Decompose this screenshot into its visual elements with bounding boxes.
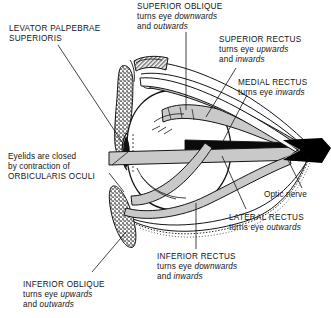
orbicularis-line2: by contraction of	[8, 162, 95, 172]
lateral-rectus-action-line1: turns eye outwards	[229, 223, 304, 233]
orbicularis-line3: ORBICULARIS OCULI	[8, 172, 95, 182]
orbicularis-line1: Eyelids are closed	[8, 152, 95, 162]
label-inferior-rectus: INFERIOR RECTUS turns eye downwards and …	[157, 252, 237, 283]
eye-muscle-diagram: LEVATOR PALPEBRAE SUPERIORIS SUPERIOR OB…	[0, 0, 331, 318]
levator-name-line2: SUPERIORIS	[9, 34, 100, 44]
superior-oblique-action-line1: turns eye downwards	[137, 12, 222, 22]
medial-rectus-action-line1: turns eye inwards	[238, 88, 307, 98]
inferior-rectus-name: INFERIOR RECTUS	[157, 252, 237, 262]
inferior-rectus-action-line1: turns eye downwards	[157, 262, 237, 272]
label-superior-rectus: SUPERIOR RECTUS turns eye upwards and in…	[219, 35, 301, 66]
superior-rectus-action-line2: and inwards	[219, 55, 301, 65]
inferior-oblique-action-line2: and outwards	[23, 300, 105, 310]
inferior-oblique-name: INFERIOR OBLIQUE	[23, 280, 105, 290]
levator-name: LEVATOR PALPEBRAE	[9, 24, 100, 34]
inferior-oblique-action-line1: turns eye upwards	[23, 290, 105, 300]
optic-nerve-name: Optic nerve	[264, 190, 307, 200]
label-medial-rectus: MEDIAL RECTUS turns eye inwards	[238, 78, 307, 98]
medial-rectus-name: MEDIAL RECTUS	[238, 78, 307, 88]
label-inferior-oblique: INFERIOR OBLIQUE turns eye upwards and o…	[23, 280, 105, 311]
superior-oblique-name: SUPERIOR OBLIQUE	[137, 2, 222, 12]
superior-rectus-name: SUPERIOR RECTUS	[219, 35, 301, 45]
label-lateral-rectus: LATERAL RECTUS turns eye outwards	[229, 213, 304, 233]
label-superior-oblique: SUPERIOR OBLIQUE turns eye downwards and…	[137, 2, 222, 33]
inferior-rectus-action-line2: and inwards	[157, 272, 237, 282]
label-optic-nerve: Optic nerve	[264, 190, 307, 200]
superior-oblique-action-line2: and outwards	[137, 22, 222, 32]
label-orbicularis-oculi: Eyelids are closed by contraction of ORB…	[8, 152, 95, 183]
lateral-rectus-name: LATERAL RECTUS	[229, 213, 304, 223]
label-levator-palpebrae-superioris: LEVATOR PALPEBRAE SUPERIORIS	[9, 24, 100, 44]
superior-rectus-action-line1: turns eye upwards	[219, 45, 301, 55]
